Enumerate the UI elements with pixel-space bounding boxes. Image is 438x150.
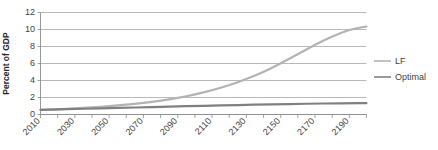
gridlines [41, 13, 367, 115]
chart-container: 024681012 201020302050207020902110213021… [0, 0, 438, 150]
x-tick-label-2050: 2050 [89, 116, 110, 137]
y-tick-labels: 024681012 [25, 7, 35, 119]
y-tick-label-4: 4 [30, 75, 35, 85]
x-tick-label-2030: 2030 [55, 116, 76, 137]
y-tick-label-12: 12 [25, 7, 35, 17]
x-tick-label-2090: 2090 [158, 116, 179, 137]
x-tick-label-2170: 2170 [295, 116, 316, 137]
y-tick-label-8: 8 [30, 41, 35, 51]
x-tick-label-2010: 2010 [21, 116, 42, 137]
line-chart: 024681012 201020302050207020902110213021… [0, 0, 438, 150]
y-tick-label-10: 10 [25, 24, 35, 34]
x-tick-labels: 2010203020502070209021102130215021702190 [21, 116, 351, 137]
y-tick-label-6: 6 [30, 58, 35, 68]
x-tick-label-2110: 2110 [193, 116, 214, 137]
chart-legend: LFOptimal [374, 56, 426, 82]
x-tick-label-2070: 2070 [124, 116, 145, 137]
x-tick-label-2190: 2190 [330, 116, 351, 137]
x-tick-label-2130: 2130 [227, 116, 248, 137]
y-tick-label-2: 2 [30, 92, 35, 102]
y-axis-title-text: Percent of GDP [1, 32, 11, 95]
x-tick-label-2150: 2150 [261, 116, 282, 137]
y-axis [38, 13, 41, 115]
legend-label-lf: LF [395, 56, 406, 66]
legend-label-optimal: Optimal [395, 72, 426, 82]
y-axis-title: Percent of GDP [1, 32, 11, 95]
